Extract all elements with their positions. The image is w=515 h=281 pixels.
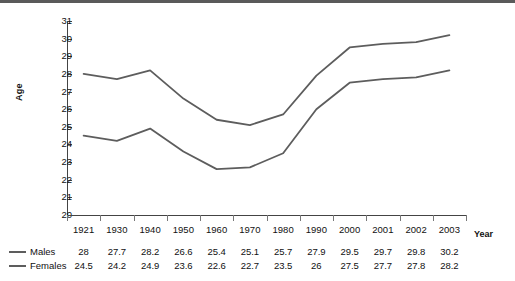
table-header-year: 1960 — [200, 224, 233, 235]
table-header-year: 2001 — [366, 224, 399, 235]
table-cell: 29.5 — [333, 246, 366, 257]
table-cell: 23.5 — [267, 260, 300, 271]
table-cell: 26.6 — [167, 246, 200, 257]
data-table: 1921193019401950196019701980199020002001… — [0, 224, 515, 281]
legend-swatch-males — [9, 251, 26, 253]
table-cell: 25.7 — [267, 246, 300, 257]
table-header-year: 1940 — [134, 224, 167, 235]
table-header-year: 1921 — [67, 224, 100, 235]
table-cell: 22.6 — [200, 260, 233, 271]
table-header-year: 2002 — [400, 224, 433, 235]
series-line-males — [84, 35, 450, 125]
table-header-year: 1970 — [233, 224, 266, 235]
table-cell: 29.8 — [400, 246, 433, 257]
table-cell: 26 — [300, 260, 333, 271]
table-cell: 27.7 — [100, 246, 133, 257]
table-header-year: 1950 — [167, 224, 200, 235]
table-cell: 29.7 — [366, 246, 399, 257]
table-cell: 28.2 — [433, 260, 466, 271]
table-cell: 24.9 — [134, 260, 167, 271]
table-cell: 28 — [67, 246, 100, 257]
table-cell: 25.1 — [233, 246, 266, 257]
table-cell: 27.9 — [300, 246, 333, 257]
chart-figure: Age 202122232425262728293031 Year 192119… — [0, 0, 515, 281]
legend-label-females: Females — [30, 260, 66, 271]
legend-label-males: Males — [30, 246, 55, 257]
table-cell: 24.2 — [100, 260, 133, 271]
table-cell: 27.7 — [366, 260, 399, 271]
table-header-year: 2003 — [433, 224, 466, 235]
table-cell: 27.8 — [400, 260, 433, 271]
table-cell: 28.2 — [134, 246, 167, 257]
table-header-year: 2000 — [333, 224, 366, 235]
table-header-year: 1930 — [100, 224, 133, 235]
table-cell: 22.7 — [233, 260, 266, 271]
table-header-year: 1990 — [300, 224, 333, 235]
table-cell: 23.6 — [167, 260, 200, 271]
table-header-year: 1980 — [267, 224, 300, 235]
table-cell: 27.5 — [333, 260, 366, 271]
table-cell: 24.5 — [67, 260, 100, 271]
table-cell: 25.4 — [200, 246, 233, 257]
legend-swatch-females — [9, 265, 26, 267]
table-cell: 30.2 — [433, 246, 466, 257]
